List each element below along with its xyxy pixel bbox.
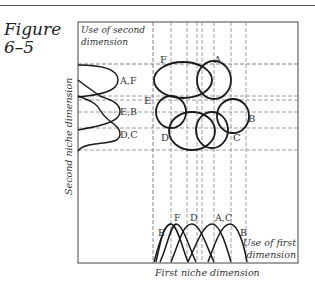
curve-label-E: E (158, 227, 165, 238)
curve-label-EB: E,B (120, 106, 137, 117)
curve-label-AC: A,C (214, 212, 232, 223)
label-D: D (161, 132, 169, 143)
corner-label-line2: dimension (81, 37, 128, 47)
curve-label-F: F (174, 212, 181, 223)
niche-F (154, 62, 212, 98)
curve-label-D: D (190, 212, 198, 223)
corner-label-line1: Use of second (81, 25, 145, 35)
label-A: A (213, 54, 222, 65)
label-E: E (144, 95, 151, 106)
x-axis-label: First niche dimension (154, 267, 260, 278)
diagram-frame (78, 22, 298, 263)
niche-D (169, 112, 215, 150)
curve-label-DC: D,C (120, 129, 138, 140)
bottom-right-label-line2: dimension (246, 249, 296, 260)
label-F: F (160, 54, 167, 65)
y-axis-label: Second niche dimension (63, 78, 74, 195)
first-dimension-curves (154, 224, 247, 262)
label-C: C (233, 132, 241, 143)
bottom-right-label-line1: Use of first (243, 237, 297, 248)
niche-overlap-diagram: F A E B D C Use of second dimension A,F … (0, 0, 315, 282)
curve-label-AF: A,F (119, 75, 137, 86)
label-B: B (248, 113, 255, 124)
second-dimension-curves (78, 65, 120, 151)
